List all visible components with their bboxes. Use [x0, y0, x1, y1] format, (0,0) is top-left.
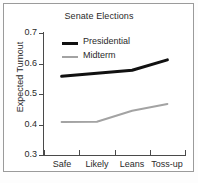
x-tick-label-tossup: Toss-up — [144, 159, 190, 169]
y-tick-label-4: 0.7 — [10, 27, 37, 37]
legend-swatch-presidential-icon — [62, 42, 78, 45]
y-axis-label: Expected Turnout — [15, 21, 25, 133]
y-tick-label-1: 0.4 — [10, 119, 37, 129]
y-tick-label-0: 0.3 — [10, 149, 37, 159]
line-presidential — [62, 60, 168, 76]
legend-swatch-midterm-icon — [62, 56, 78, 58]
chart-figure: Senate Elections Expected Turnout 0.3 0.… — [0, 0, 198, 183]
line-midterm — [62, 104, 168, 122]
legend-label-presidential: Presidential — [83, 36, 130, 46]
chart-title: Senate Elections — [0, 11, 198, 21]
x-tick-4 — [185, 150, 186, 156]
legend-label-midterm: Midterm — [83, 50, 116, 60]
y-tick-label-2: 0.5 — [10, 88, 37, 98]
y-tick-label-3: 0.6 — [10, 58, 37, 68]
